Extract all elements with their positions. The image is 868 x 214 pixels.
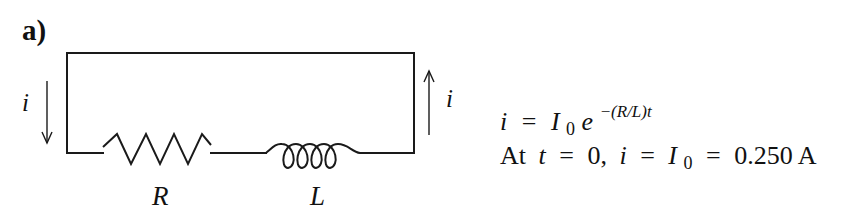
current-label-right: i (446, 85, 453, 112)
eq1-exponent: −(R/L)t (600, 102, 653, 121)
resistor-symbol (103, 134, 211, 164)
eq2-I: I (667, 141, 678, 170)
eq2-I-sub: 0 (683, 153, 692, 173)
eq1-lhs: i (500, 107, 507, 136)
eq2-equals-3: = (706, 141, 721, 170)
eq1-exp-base: e (582, 107, 594, 136)
inductor-symbol (266, 144, 367, 168)
eq1-equals: = (522, 107, 537, 136)
eq2-equals-1: = (559, 141, 574, 170)
eq2-var-t: t (539, 141, 547, 170)
part-label: a) (22, 14, 46, 47)
current-arrow-left (42, 81, 52, 143)
inductor-label: L (309, 181, 325, 211)
eq2-prefix: At (500, 141, 527, 170)
resistor-label: R (151, 181, 169, 211)
equation-line-1: i = I 0 e −(R/L)t (500, 102, 653, 141)
current-arrow-right (424, 71, 434, 135)
eq2-t-value: 0, (587, 141, 607, 170)
current-label-left: i (22, 89, 29, 116)
eq2-var-i: i (619, 141, 626, 170)
eq2-value: 0.250 A (734, 141, 817, 170)
eq2-equals-2: = (640, 141, 655, 170)
eq1-base: I (550, 107, 561, 136)
equation-line-2: At t = 0, i = I 0 = 0.250 A (500, 141, 817, 175)
eq1-base-sub: 0 (566, 119, 575, 139)
circuit-diagram: a) i i R L i = I 0 e −(R/L)t At t (0, 0, 868, 214)
